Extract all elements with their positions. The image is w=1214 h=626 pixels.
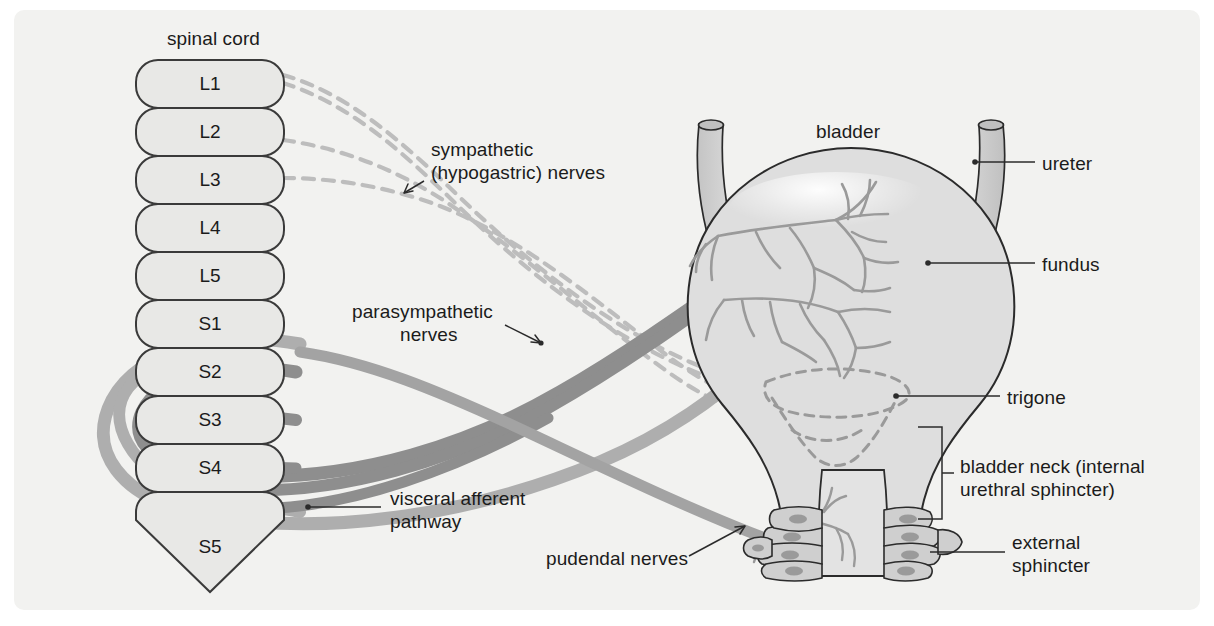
spinal-segment-label: L4: [199, 217, 221, 238]
spinal-segment-S3[interactable]: S3: [136, 396, 284, 444]
leader-parasympathetic: [505, 325, 541, 343]
parasympathetic-nerves-label-line1: parasympathetic: [352, 300, 493, 323]
visceral-afferent-label-line2: pathway: [390, 510, 461, 533]
spinal-cord-title: spinal cord: [167, 27, 260, 50]
spinal-segment-label: S2: [198, 361, 221, 382]
pudendal-nerve-group: [300, 352, 770, 540]
pudendal-band: [300, 352, 770, 540]
spinal-segment-label: S5: [198, 536, 221, 557]
sympathetic-nerves-label-line2: (hypogastric) nerves: [431, 161, 605, 184]
visceral-afferent-label-line1: visceral afferent: [390, 487, 525, 510]
spinal-segment-label: L5: [199, 265, 220, 286]
spinal-segment-label: S3: [198, 409, 221, 430]
spinal-segment-label: L3: [199, 169, 220, 190]
bladder-neck-label-line1: bladder neck (internal: [960, 455, 1145, 478]
spinal-segment-label: L2: [199, 121, 220, 142]
spinal-segment-L3[interactable]: L3: [136, 156, 284, 204]
spinal-segment-S2[interactable]: S2: [136, 348, 284, 396]
trigone-label: trigone: [1007, 386, 1066, 409]
parasympathetic-nerves-label-line2: nerves: [400, 323, 458, 346]
spinal-segment-L4[interactable]: L4: [136, 204, 284, 252]
bladder-label: bladder: [816, 120, 880, 143]
spinal-segment-label: S1: [198, 313, 221, 334]
spinal-segment-L1[interactable]: L1: [136, 60, 284, 108]
fundus-label: fundus: [1042, 253, 1100, 276]
bladder-neck-label-line2: urethral sphincter): [960, 478, 1115, 501]
spinal-segment-label: S4: [198, 457, 222, 478]
spinal-cord: L1 L2 L3 L4 L5 S1: [136, 60, 284, 592]
external-sphincter-label-line2: sphincter: [1012, 554, 1090, 577]
spinal-segment-L2[interactable]: L2: [136, 108, 284, 156]
spinal-segment-label: L1: [199, 73, 220, 94]
spinal-segment-S1[interactable]: S1: [136, 300, 284, 348]
spinal-segment-L5[interactable]: L5: [136, 252, 284, 300]
external-sphincter-left: [744, 507, 823, 581]
spinal-segment-S4[interactable]: S4: [136, 444, 284, 492]
sympathetic-nerves-label-line1: sympathetic: [431, 138, 533, 161]
anatomical-figure: L1 L2 L3 L4 L5 S1: [0, 0, 1214, 626]
external-sphincter-label-line1: external: [1012, 531, 1080, 554]
urethra: [819, 470, 888, 576]
pudendal-nerves-label: pudendal nerves: [546, 547, 688, 570]
leader-pudendal: [689, 526, 745, 556]
ureter-label: ureter: [1042, 152, 1092, 175]
spinal-segment-S5[interactable]: S5: [136, 492, 284, 592]
